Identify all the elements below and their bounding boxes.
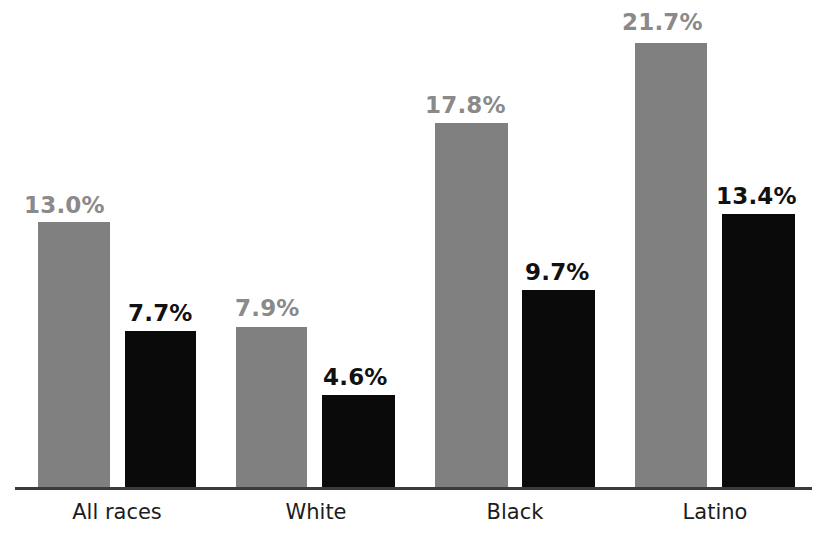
bar-label-series-b-all-races: 7.7%	[128, 302, 193, 325]
x-axis-baseline	[15, 487, 812, 490]
category-label-latino: Latino	[635, 500, 795, 525]
bar-label-series-a-black: 17.8%	[425, 94, 506, 117]
bar-label-series-a-all-races: 13.0%	[24, 194, 105, 217]
bar-label-series-a-latino: 21.7%	[622, 11, 703, 34]
bar-label-series-a-white: 7.9%	[235, 297, 300, 320]
x-axis-category-labels: All races White Black Latino	[0, 500, 831, 545]
category-label-all-races: All races	[37, 500, 197, 525]
bar-chart: 13.0% 7.7% 7.9% 4.6% 17.8% 9.7% 21.7% 13…	[0, 0, 831, 545]
bar-label-series-b-black: 9.7%	[525, 261, 590, 284]
bar-series-a-white	[236, 327, 307, 489]
category-label-black: Black	[435, 500, 595, 525]
category-label-white: White	[236, 500, 396, 525]
bar-series-b-black	[522, 290, 595, 489]
bar-series-a-latino	[635, 43, 707, 489]
bar-label-series-b-latino: 13.4%	[716, 185, 797, 208]
bar-series-a-all-races	[38, 222, 110, 489]
plot-area: 13.0% 7.7% 7.9% 4.6% 17.8% 9.7% 21.7% 13…	[0, 0, 831, 489]
bar-series-a-black	[435, 123, 508, 489]
bar-series-b-white	[322, 395, 395, 489]
bar-series-b-all-races	[125, 331, 196, 489]
bar-series-b-latino	[722, 214, 795, 489]
bar-label-series-b-white: 4.6%	[323, 366, 388, 389]
